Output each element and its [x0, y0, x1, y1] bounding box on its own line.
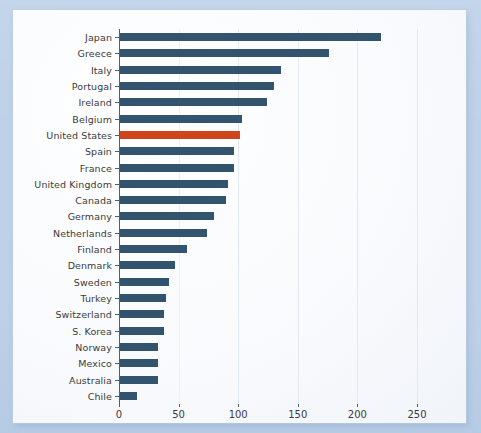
bar-norway	[120, 343, 158, 351]
category-label-italy: Italy	[91, 64, 112, 75]
category-label-canada: Canada	[75, 195, 112, 206]
x-axis-tick-250	[417, 404, 418, 407]
category-label-united-states: United States	[46, 129, 112, 140]
bar-row: Italy	[119, 62, 477, 78]
y-axis-tick	[115, 314, 119, 315]
bar-greece	[120, 49, 329, 57]
bar-australia	[120, 376, 158, 384]
bar-row: Denmark	[119, 257, 477, 273]
bar-netherlands	[120, 229, 207, 237]
chart-screenshot: JapanGreeceItalyPortugalIrelandBelgiumUn…	[0, 0, 481, 433]
x-axis-label-100: 100	[229, 409, 248, 420]
x-axis-tick-150	[298, 404, 299, 407]
category-label-australia: Australia	[69, 374, 112, 385]
bar-row: Australia	[119, 371, 477, 387]
x-axis-tick-100	[238, 404, 239, 407]
x-axis-tick-0	[119, 404, 120, 407]
bar-mexico	[120, 359, 158, 367]
y-axis-tick	[115, 347, 119, 348]
bar-row: Japan	[119, 29, 477, 45]
bar-row: Switzerland	[119, 306, 477, 322]
y-axis-tick	[115, 331, 119, 332]
bar-row: Canada	[119, 192, 477, 208]
category-label-portugal: Portugal	[72, 81, 112, 92]
bar-germany	[120, 212, 214, 220]
bar-turkey	[120, 294, 166, 302]
bar-italy	[120, 66, 281, 74]
bar-row: France	[119, 159, 477, 175]
bar-row: Norway	[119, 339, 477, 355]
y-axis-tick	[115, 53, 119, 54]
bar-row: Mexico	[119, 355, 477, 371]
bar-s-korea	[120, 327, 164, 335]
y-axis-tick	[115, 70, 119, 71]
bar-row: Chile	[119, 388, 477, 404]
category-label-germany: Germany	[68, 211, 112, 222]
bar-sweden	[120, 278, 169, 286]
y-axis-tick	[115, 119, 119, 120]
bar-row: Sweden	[119, 274, 477, 290]
y-axis-tick	[115, 396, 119, 397]
y-axis-tick	[115, 265, 119, 266]
category-label-japan: Japan	[85, 32, 112, 43]
y-axis-tick	[115, 233, 119, 234]
bar-finland	[120, 245, 187, 253]
y-axis-tick	[115, 200, 119, 201]
x-axis-label-0: 0	[116, 409, 122, 420]
bar-france	[120, 164, 234, 172]
y-axis-tick	[115, 168, 119, 169]
category-label-netherlands: Netherlands	[53, 227, 112, 238]
x-axis-tick-200	[357, 404, 358, 407]
bar-row: Finland	[119, 241, 477, 257]
category-label-sweden: Sweden	[74, 276, 112, 287]
bar-belgium	[120, 115, 242, 123]
bar-row: Portugal	[119, 78, 477, 94]
bar-japan	[120, 33, 381, 41]
bar-row: Turkey	[119, 290, 477, 306]
bar-portugal	[120, 82, 274, 90]
x-axis-tick-50	[179, 404, 180, 407]
y-axis-tick	[115, 37, 119, 38]
y-axis-tick	[115, 249, 119, 250]
y-axis-tick	[115, 216, 119, 217]
y-axis-tick	[115, 298, 119, 299]
bar-row: S. Korea	[119, 322, 477, 338]
x-axis-label-150: 150	[288, 409, 307, 420]
x-axis-label-50: 50	[172, 409, 185, 420]
bar-switzerland	[120, 310, 164, 318]
category-label-norway: Norway	[75, 341, 112, 352]
plot-area: JapanGreeceItalyPortugalIrelandBelgiumUn…	[119, 29, 417, 404]
bar-row: United States	[119, 127, 477, 143]
y-axis-tick	[115, 135, 119, 136]
category-label-mexico: Mexico	[78, 358, 112, 369]
chart-panel: JapanGreeceItalyPortugalIrelandBelgiumUn…	[13, 10, 466, 423]
y-axis-tick	[115, 184, 119, 185]
category-label-denmark: Denmark	[68, 260, 112, 271]
bar-united-kingdom	[120, 180, 228, 188]
bar-row: Germany	[119, 208, 477, 224]
y-axis-tick	[115, 282, 119, 283]
category-label-chile: Chile	[88, 390, 112, 401]
y-axis-tick	[115, 102, 119, 103]
bar-row: Ireland	[119, 94, 477, 110]
category-label-finland: Finland	[77, 244, 112, 255]
x-axis: 050100150200250	[119, 404, 417, 428]
bar-row: Spain	[119, 143, 477, 159]
x-axis-label-200: 200	[348, 409, 367, 420]
bar-row: Belgium	[119, 111, 477, 127]
category-label-switzerland: Switzerland	[55, 309, 112, 320]
bar-united-states	[120, 131, 240, 139]
bar-ireland	[120, 98, 267, 106]
bar-chile	[120, 392, 137, 400]
bar-row: Netherlands	[119, 225, 477, 241]
category-label-s-korea: S. Korea	[72, 325, 112, 336]
category-label-turkey: Turkey	[80, 293, 112, 304]
category-label-france: France	[80, 162, 112, 173]
y-axis-tick	[115, 151, 119, 152]
y-axis-tick	[115, 86, 119, 87]
category-label-spain: Spain	[85, 146, 112, 157]
category-label-belgium: Belgium	[72, 113, 112, 124]
bar-canada	[120, 196, 226, 204]
category-label-united-kingdom: United Kingdom	[34, 178, 112, 189]
category-label-greece: Greece	[78, 48, 112, 59]
